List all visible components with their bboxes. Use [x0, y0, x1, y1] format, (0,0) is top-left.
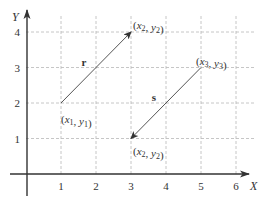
y-tick-label: 3: [15, 62, 21, 74]
x-tick-label: 5: [198, 180, 204, 192]
x-tick-label: 2: [93, 180, 99, 192]
x-axis-label: X: [249, 179, 258, 193]
point-labels: (x1, y1)(x2, y2)(x3, y3)(x2, y2): [61, 19, 227, 162]
vector-label-r: r: [82, 56, 87, 68]
y-tick-label: 1: [15, 133, 21, 145]
x-tick-label: 3: [128, 180, 134, 192]
y-tick-label: 4: [15, 26, 21, 38]
x-tick-label: 6: [233, 180, 239, 192]
point-label: (x2, y2): [133, 145, 164, 162]
y-axis-label: Y: [12, 10, 20, 24]
point-label: (x2, y2): [133, 19, 164, 36]
x-tick-label: 1: [58, 180, 64, 192]
tick-labels: 1234561234: [15, 26, 240, 192]
vector-label-s: s: [152, 91, 157, 103]
x-tick-label: 4: [163, 180, 169, 192]
point-label: (x1, y1): [61, 113, 92, 130]
y-tick-label: 2: [15, 97, 21, 109]
vector-diagram: X Y 1234561234 rs (x1, y1)(x2, y2)(x3, y…: [0, 0, 269, 201]
